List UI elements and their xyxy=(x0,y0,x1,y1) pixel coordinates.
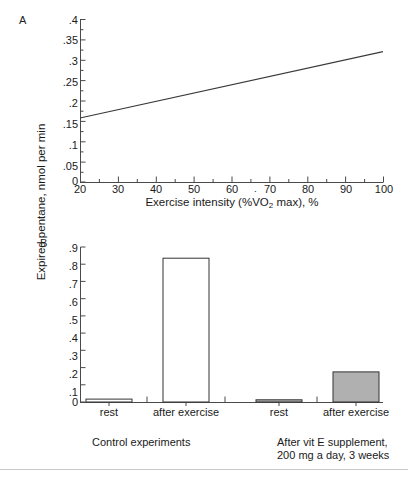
panel-a-ytick-4: .2 xyxy=(52,97,78,109)
group-caption-control-line-0: Control experiments xyxy=(92,436,190,449)
panel-a-ytick-2: .3 xyxy=(52,55,78,67)
bar-control-rest xyxy=(86,399,132,402)
panel-a-xtick-2: 40 xyxy=(141,183,171,195)
group-caption-vite-line-0: After vit E supplement, xyxy=(277,436,389,449)
group-caption-control: Control experiments xyxy=(92,436,190,449)
panel-a-xtick-4: 60 xyxy=(217,183,247,195)
xlabel-subscript: 2 xyxy=(269,201,273,210)
group-caption-vite: After vit E supplement, 200 mg a day, 3 … xyxy=(277,436,389,462)
panel-a-xtick-8: 100 xyxy=(369,183,399,195)
panel-b-category-3: after exercise xyxy=(308,406,404,418)
xlabel-post: max), % xyxy=(273,196,318,208)
shared-y-axis-label: Expired pentane, nmol per min xyxy=(35,92,47,312)
bar-vite-after-exercise xyxy=(333,372,379,402)
panel-a-xtick-5: 70 xyxy=(255,183,285,195)
panel-b-category-0: rest xyxy=(82,406,136,418)
panel-b-ytick-0: 0 xyxy=(52,396,78,408)
figure-container: A B Expired pentane, nmol per min Exerci… xyxy=(0,0,408,481)
xlabel-pre: Exercise intensity (% xyxy=(145,196,252,208)
panel-a-x-axis-label: Exercise intensity (%VO2 max), % xyxy=(80,196,384,208)
panel-b-category-1: after exercise xyxy=(138,406,234,418)
panel-a-ytick-7: .05 xyxy=(52,160,78,172)
panel-a-ytick-5: .15 xyxy=(52,118,78,130)
panel-a-ytick-0: .4 xyxy=(52,14,78,26)
panel-b-ytick-8: .8 xyxy=(52,260,78,272)
panel-a-ytick-6: .1 xyxy=(52,139,78,151)
panel-a-axes xyxy=(80,19,384,183)
panel-b-ytick-6: .6 xyxy=(52,296,78,308)
panel-a-xtick-1: 30 xyxy=(103,183,133,195)
panel-a-xtick-0: 20 xyxy=(65,183,95,195)
panel-b-ytick-5: .5 xyxy=(52,314,78,326)
panel-a-ytick-3: .25 xyxy=(52,76,78,88)
panel-b-ytick-9: .9 xyxy=(52,242,78,254)
panel-a-ytick-1: .35 xyxy=(52,34,78,46)
panel-b-ytick-2: .2 xyxy=(52,368,78,380)
footer-divider xyxy=(0,469,408,470)
panel-b-ytick-3: .3 xyxy=(52,350,78,362)
panel-b-axes xyxy=(80,247,383,406)
xlabel-o: O xyxy=(260,196,269,208)
panel-a-xtick-7: 90 xyxy=(331,183,361,195)
panel-a-regression-line xyxy=(80,52,383,118)
panel-b-ytick-7: .7 xyxy=(52,278,78,290)
v-dot-symbol: V xyxy=(252,196,260,208)
panel-a-xtick-6: 80 xyxy=(293,183,323,195)
panel-b-category-2: rest xyxy=(252,406,306,418)
bar-control-after-exercise xyxy=(163,258,209,402)
panel-b-ytick-4: .4 xyxy=(52,332,78,344)
bar-vite-rest xyxy=(256,400,302,402)
group-caption-vite-line-1: 200 mg a day, 3 weeks xyxy=(277,449,389,462)
panel-a-xtick-3: 50 xyxy=(179,183,209,195)
panel-a-label: A xyxy=(19,14,26,26)
